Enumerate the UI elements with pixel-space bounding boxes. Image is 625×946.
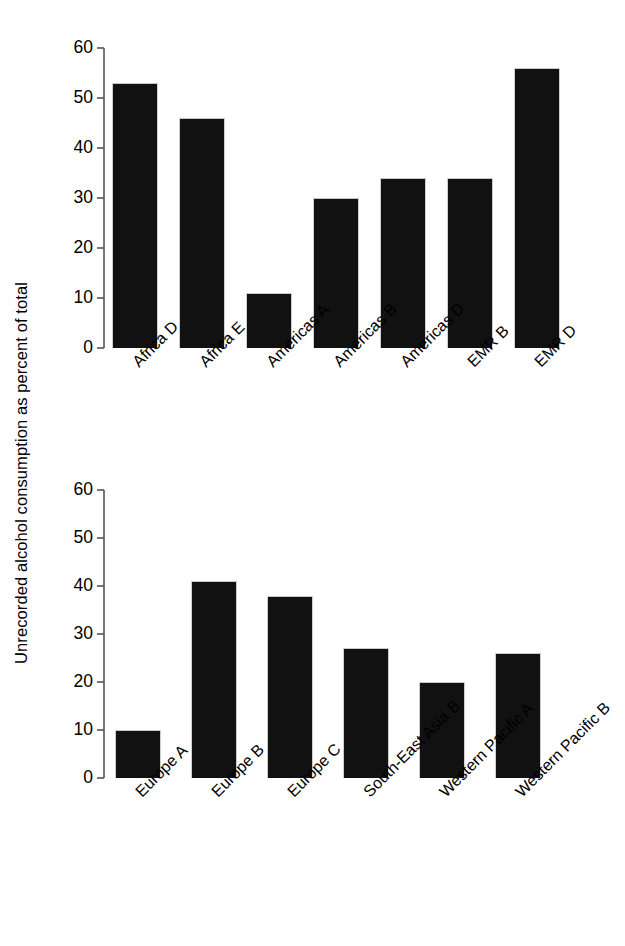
y-axis-title-container: Unrecorded alcohol consumption as percen… — [0, 0, 42, 946]
bar — [191, 581, 237, 778]
bar — [179, 118, 225, 348]
bar-group-bottom — [42, 440, 625, 778]
bar-group-top — [42, 0, 625, 348]
y-axis-title: Unrecorded alcohol consumption as percen… — [12, 282, 31, 664]
bar — [343, 648, 389, 778]
bar — [514, 68, 560, 348]
chart-panel-top: 0102030405060 Africa DAfrica EAmericas A… — [42, 0, 625, 470]
bar — [267, 596, 313, 778]
bar — [112, 83, 158, 348]
figure: Unrecorded alcohol consumption as percen… — [0, 0, 625, 946]
chart-panel-bottom: 0102030405060 Europe AEurope BEurope CSo… — [42, 440, 625, 946]
